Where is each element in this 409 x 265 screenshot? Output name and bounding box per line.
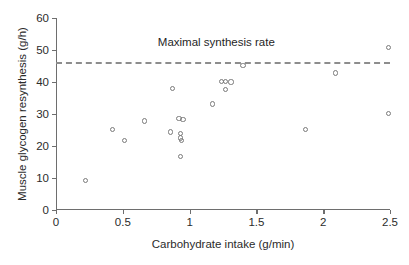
data-point	[83, 178, 88, 183]
data-point	[180, 117, 185, 122]
data-point	[223, 87, 228, 92]
x-tick-mark	[323, 210, 324, 214]
x-tick-label: 1	[186, 216, 192, 228]
x-tick-label: 2.5	[382, 216, 398, 228]
data-point	[240, 63, 245, 68]
data-point	[179, 138, 184, 143]
data-point	[168, 129, 173, 134]
y-tick-label: 10	[36, 172, 49, 184]
maximal-synthesis-rate-line	[56, 62, 390, 64]
y-tick-label: 30	[36, 108, 49, 120]
y-tick-label: 50	[36, 44, 49, 56]
y-tick-label: 60	[36, 12, 49, 24]
y-axis-line	[56, 18, 57, 210]
y-axis-title: Muscle glycogen resynthesis (g/h)	[16, 18, 34, 210]
data-point	[178, 154, 183, 159]
x-tick-label: 0.5	[115, 216, 131, 228]
x-tick-mark	[56, 210, 57, 214]
x-tick-label: 1.5	[248, 216, 264, 228]
y-tick-mark	[52, 114, 56, 115]
y-tick-mark	[52, 50, 56, 51]
y-tick-label: 0	[43, 204, 49, 216]
data-point	[210, 101, 215, 106]
scatter-plot-figure: 0102030405060 00.511.522.5 Maximal synth…	[0, 0, 409, 265]
data-point	[228, 79, 233, 84]
data-point	[170, 86, 175, 91]
y-tick-mark	[52, 82, 56, 83]
y-tick-mark	[52, 146, 56, 147]
x-tick-mark	[190, 210, 191, 214]
y-tick-mark	[52, 178, 56, 179]
data-point	[333, 70, 338, 75]
data-point	[386, 45, 391, 50]
data-point	[303, 127, 308, 132]
data-point	[110, 127, 115, 132]
x-tick-mark	[256, 210, 257, 214]
x-axis-line	[56, 209, 390, 210]
plot-area: 0102030405060 00.511.522.5 Maximal synth…	[56, 18, 390, 210]
x-tick-label: 2	[320, 216, 326, 228]
maximal-synthesis-rate-label: Maximal synthesis rate	[158, 36, 275, 48]
x-tick-mark	[123, 210, 124, 214]
x-tick-mark	[390, 210, 391, 214]
y-tick-label: 20	[36, 140, 49, 152]
y-tick-label: 40	[36, 76, 49, 88]
x-axis-title: Carbohydrate intake (g/min)	[56, 238, 390, 250]
data-point	[386, 111, 391, 116]
data-point	[122, 138, 127, 143]
data-point	[142, 118, 147, 123]
x-tick-label: 0	[53, 216, 59, 228]
y-tick-mark	[52, 18, 56, 19]
